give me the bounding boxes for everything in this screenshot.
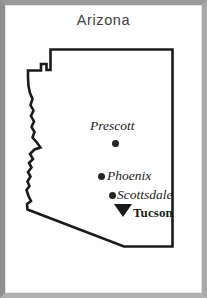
- map-card-inner-border: Arizona Prescott Phoenix Scottsdale Tucs…: [5, 5, 202, 293]
- circle-dot-marker-icon: [112, 140, 119, 147]
- circle-dot-marker-icon: [98, 173, 105, 180]
- down-triangle-marker-icon: [114, 204, 132, 217]
- arizona-map-card: Arizona Prescott Phoenix Scottsdale Tucs…: [0, 0, 207, 298]
- city-label-prescott: Prescott: [90, 119, 135, 133]
- arizona-state-outline-svg: [6, 6, 203, 294]
- city-label-scottsdale: Scottsdale: [117, 188, 173, 202]
- city-label-tucson: Tucson: [133, 206, 173, 219]
- circle-dot-marker-icon: [109, 192, 116, 199]
- city-label-phoenix: Phoenix: [107, 169, 151, 183]
- map-stage: Prescott Phoenix Scottsdale Tucson: [6, 6, 203, 294]
